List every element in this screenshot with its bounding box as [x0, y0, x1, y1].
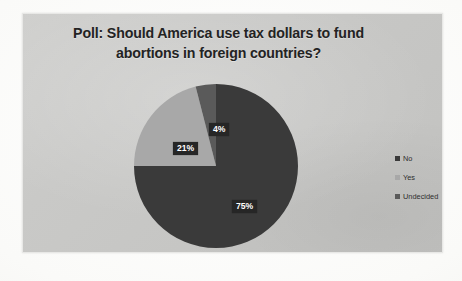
pie-chart	[134, 84, 298, 248]
legend-swatch-no-icon	[395, 156, 400, 161]
legend-item-yes[interactable]: Yes	[395, 170, 443, 185]
pie-label-undecided: 4%	[209, 123, 229, 136]
pie-label-yes: 21%	[173, 142, 198, 155]
legend-item-undecided[interactable]: Undecided	[395, 189, 443, 204]
pie-chart-svg	[134, 84, 298, 248]
legend-label-no: No	[403, 155, 412, 162]
chart-title-line-2: abortions in foreign countries?	[41, 43, 396, 63]
chart-title: Poll: Should America use tax dollars to …	[41, 23, 396, 63]
pie-label-no: 75%	[232, 200, 257, 213]
chart-legend: No Yes Undecided	[395, 151, 443, 208]
legend-swatch-yes-icon	[395, 175, 400, 180]
pie-slices	[134, 84, 298, 248]
legend-swatch-undecided-icon	[395, 194, 400, 199]
legend-label-yes: Yes	[403, 174, 415, 181]
legend-label-undecided: Undecided	[403, 193, 438, 200]
legend-item-no[interactable]: No	[395, 151, 443, 166]
screenshot-root: Poll: Should America use tax dollars to …	[0, 0, 462, 281]
chart-title-line-1: Poll: Should America use tax dollars to …	[41, 23, 396, 43]
chart-panel: Poll: Should America use tax dollars to …	[22, 13, 443, 253]
